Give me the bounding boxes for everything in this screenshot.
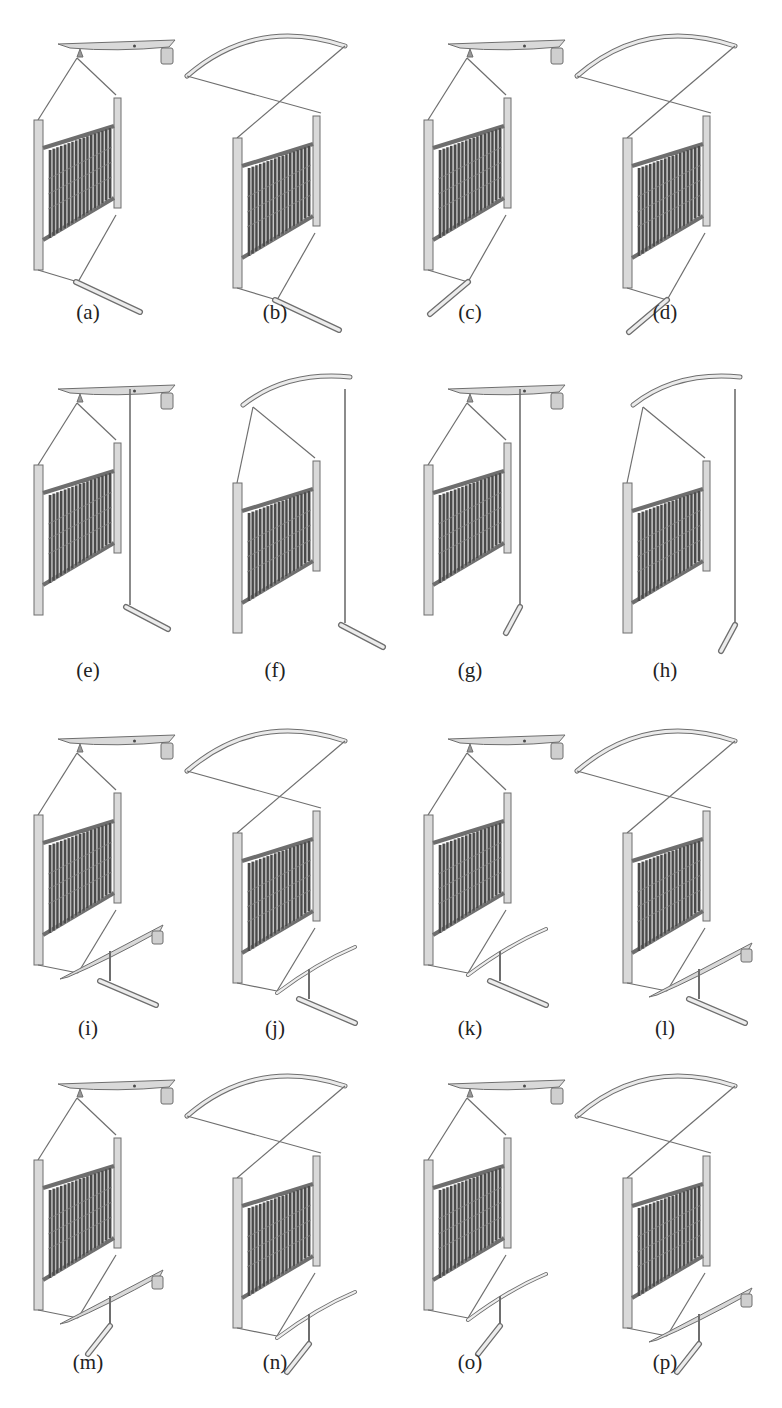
- panel-label-o: (o): [440, 1350, 500, 1375]
- panel-label-g: (g): [440, 658, 500, 683]
- loom-mechanism-illustration: [390, 20, 585, 310]
- loom-mechanism-illustration: [390, 365, 585, 655]
- loom-mechanism-illustration: [0, 20, 195, 310]
- panel-label-l: (l): [635, 1016, 695, 1041]
- panel-label-e: (e): [58, 658, 118, 683]
- loom-mechanism-illustration: [0, 715, 195, 1005]
- panel-label-f: (f): [245, 658, 305, 683]
- panel-label-c: (c): [440, 300, 500, 325]
- loom-mechanism-illustration: [195, 715, 390, 1005]
- panel-label-a: (a): [58, 300, 118, 325]
- panel-label-p: (p): [635, 1350, 695, 1375]
- loom-mechanism-illustration: [0, 1060, 195, 1350]
- loom-mechanism-illustration: [390, 1060, 585, 1350]
- loom-mechanism-illustration: [390, 715, 585, 1005]
- loom-mechanism-illustration: [585, 715, 780, 1005]
- panel-label-d: (d): [635, 300, 695, 325]
- loom-mechanism-illustration: [195, 1060, 390, 1350]
- loom-mechanism-illustration: [585, 20, 780, 310]
- loom-mechanism-illustration: [195, 20, 390, 310]
- panel-label-b: (b): [245, 300, 305, 325]
- panel-label-k: (k): [440, 1016, 500, 1041]
- panel-label-m: (m): [58, 1350, 118, 1375]
- loom-mechanism-illustration: [195, 365, 390, 655]
- panel-label-n: (n): [245, 1350, 305, 1375]
- panel-label-j: (j): [245, 1016, 305, 1041]
- panel-label-i: (i): [58, 1016, 118, 1041]
- loom-mechanism-illustration: [0, 365, 195, 655]
- loom-mechanism-illustration: [585, 1060, 780, 1350]
- panel-label-h: (h): [635, 658, 695, 683]
- loom-mechanism-illustration: [585, 365, 780, 655]
